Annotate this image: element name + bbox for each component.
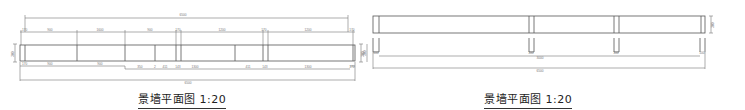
right-drawing-title: 景墙平面图 1:20: [484, 90, 572, 106]
title-underline: [138, 108, 226, 110]
left-drawing-title: 景墙平面图 1:20: [138, 90, 226, 106]
left-top-overall-dim: 6500: [179, 13, 186, 17]
svg-text:100: 100: [528, 51, 534, 55]
svg-text:100: 100: [699, 51, 705, 55]
svg-text:170: 170: [22, 62, 28, 66]
title-underline: [484, 108, 572, 110]
right-bottom-overall-dim: 6500: [536, 69, 543, 73]
svg-text:411: 411: [162, 65, 167, 69]
svg-text:1600: 1600: [96, 28, 103, 32]
svg-text:900: 900: [47, 28, 53, 32]
svg-text:100: 100: [613, 51, 619, 55]
svg-text:3000: 3000: [536, 56, 543, 60]
svg-text:1200: 1200: [304, 28, 311, 32]
svg-text:170: 170: [22, 28, 28, 32]
svg-text:300: 300: [711, 22, 715, 28]
left-wall-plan: 6500 170 900 1600 900 170 1200 170 1200 …: [11, 13, 365, 85]
svg-text:1300: 1300: [304, 65, 311, 69]
svg-text:900: 900: [147, 28, 153, 32]
svg-text:350: 350: [137, 65, 143, 69]
svg-text:170: 170: [349, 65, 355, 69]
svg-text:900: 900: [97, 62, 103, 66]
svg-text:300: 300: [11, 51, 15, 57]
left-bottom-overall-dim: 6500: [184, 81, 191, 85]
svg-text:1200: 1200: [218, 28, 225, 32]
svg-text:1300: 1300: [191, 65, 198, 69]
svg-text:170: 170: [349, 28, 355, 32]
svg-text:900: 900: [47, 62, 53, 66]
svg-text:143: 143: [262, 65, 268, 69]
svg-text:300: 300: [363, 50, 367, 56]
svg-text:411: 411: [245, 65, 250, 69]
drawing-canvas: 6500 170 900 1600 900 170 1200 170 1200 …: [0, 0, 745, 110]
svg-text:170: 170: [261, 28, 267, 32]
svg-text:2: 2: [154, 65, 156, 69]
svg-text:143: 143: [175, 65, 181, 69]
svg-text:100: 100: [373, 51, 379, 55]
right-wall-plan: 300 100 100 100 100 300 3000 6500: [363, 16, 715, 73]
